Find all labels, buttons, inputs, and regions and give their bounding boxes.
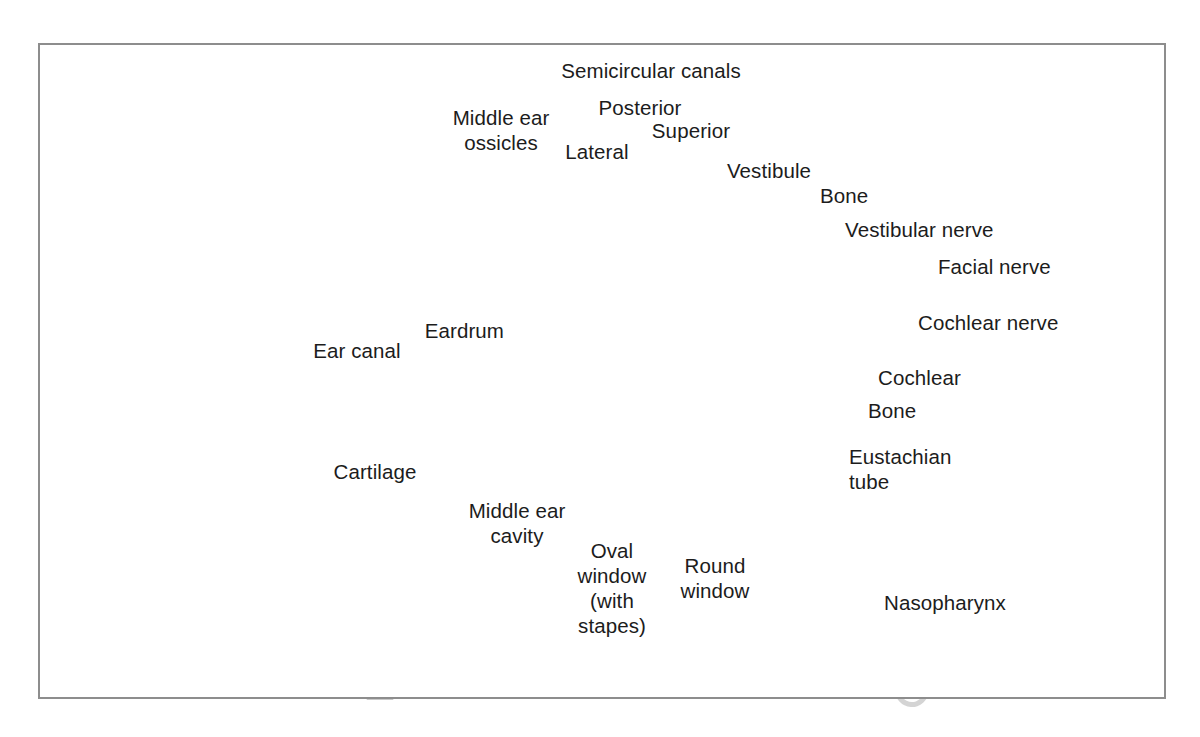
label-facial-nerve: Facial nerve xyxy=(938,254,1051,279)
label-round-window-1: Round xyxy=(685,553,746,578)
label-middle-ear-ossicles-2: ossicles xyxy=(464,130,538,155)
label-posterior: Posterior xyxy=(599,95,682,120)
label-lateral: Lateral xyxy=(565,139,628,164)
label-superior: Superior xyxy=(652,118,730,143)
label-eustachian-tube-1: Eustachian xyxy=(849,444,951,469)
label-oval-window-1: Oval xyxy=(591,538,634,563)
label-bone-lower: Bone xyxy=(868,398,916,423)
label-oval-window-3: (with xyxy=(590,588,634,613)
label-nasopharynx: Nasopharynx xyxy=(884,590,1006,615)
label-eustachian-tube-2: tube xyxy=(849,469,889,494)
label-vestibule: Vestibule xyxy=(727,158,811,183)
ear-anatomy-figure: Semicircular canalsPosteriorSuperiorLate… xyxy=(0,0,1200,737)
label-middle-ear-ossicles-1: Middle ear xyxy=(453,105,550,130)
label-semicircular-canals: Semicircular canals xyxy=(561,58,741,83)
label-ear-canal: Ear canal xyxy=(313,338,401,363)
label-bone-upper: Bone xyxy=(820,183,868,208)
label-vestibular-nerve: Vestibular nerve xyxy=(845,217,994,242)
label-middle-ear-cavity-1: Middle ear xyxy=(469,498,566,523)
label-oval-window-4: stapes) xyxy=(578,613,646,638)
label-eardrum: Eardrum xyxy=(425,318,504,343)
label-round-window-2: window xyxy=(681,578,750,603)
label-cochlear: Cochlear xyxy=(878,365,961,390)
label-middle-ear-cavity-2: cavity xyxy=(490,523,543,548)
label-cochlear-nerve: Cochlear nerve xyxy=(918,310,1058,335)
label-oval-window-2: window xyxy=(578,563,647,588)
label-cartilage: Cartilage xyxy=(334,459,417,484)
